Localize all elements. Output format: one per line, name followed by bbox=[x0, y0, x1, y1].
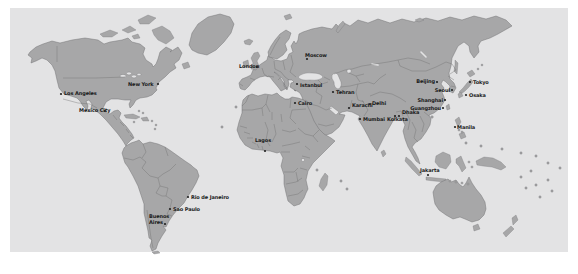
city-dot bbox=[454, 126, 456, 128]
great-lake-2 bbox=[126, 72, 131, 75]
city-dot bbox=[398, 115, 400, 117]
city-label: Sao Paulo bbox=[173, 206, 201, 212]
city-label: Mexico City bbox=[79, 107, 111, 114]
great-lake-4 bbox=[137, 73, 141, 75]
city-dot bbox=[465, 94, 467, 96]
city-dot bbox=[264, 150, 266, 152]
city-label: Mumbai bbox=[363, 116, 385, 122]
city-label: Lagos bbox=[255, 137, 271, 144]
city-label: Manila bbox=[457, 124, 475, 130]
city-label: Istanbul bbox=[300, 82, 323, 88]
city-label: Seoul bbox=[435, 87, 451, 93]
city-label: Los Angeles bbox=[64, 90, 97, 97]
city-dot bbox=[296, 83, 298, 85]
city-label: Delhi bbox=[372, 100, 386, 106]
city-label: Jakarta bbox=[419, 167, 439, 173]
city-label: Shanghai bbox=[417, 97, 443, 104]
city-label: Guangzhou bbox=[410, 105, 441, 112]
city-dot bbox=[164, 223, 166, 225]
city-dot bbox=[436, 81, 438, 83]
city-label: London bbox=[239, 63, 260, 69]
city-dot bbox=[332, 91, 334, 93]
great-lake-3 bbox=[131, 75, 136, 78]
city-dot bbox=[348, 107, 350, 109]
city-label: New York bbox=[128, 81, 154, 87]
city-label: Tehran bbox=[336, 89, 355, 95]
city-dot bbox=[451, 89, 453, 91]
lake-victoria bbox=[301, 158, 304, 161]
city-dot bbox=[469, 81, 471, 83]
city-dot bbox=[442, 107, 444, 109]
city-label: Beijing bbox=[416, 78, 435, 85]
city-label: Aires bbox=[149, 219, 163, 225]
city-dot bbox=[444, 99, 446, 101]
city-dot bbox=[157, 83, 159, 85]
city-dot bbox=[169, 208, 171, 210]
city-dot bbox=[60, 93, 62, 95]
city-label: Moscow bbox=[305, 52, 327, 58]
city-label: Rio de Janeiro bbox=[191, 194, 230, 200]
world-map-image: Los AngelesMexico CityNew YorkLondonMosc… bbox=[0, 0, 578, 274]
city-dot bbox=[187, 196, 189, 198]
city-dot bbox=[294, 102, 296, 104]
city-label: Kolkata bbox=[387, 116, 408, 122]
world-map-svg: Los AngelesMexico CityNew YorkLondonMosc… bbox=[0, 0, 578, 274]
city-dot bbox=[306, 58, 308, 60]
city-dot bbox=[359, 118, 361, 120]
city-label: Tokyo bbox=[473, 79, 489, 86]
city-label: Osaka bbox=[469, 92, 486, 98]
city-dot bbox=[369, 103, 371, 105]
city-dot bbox=[427, 174, 429, 176]
city-label: Cairo bbox=[298, 100, 313, 106]
